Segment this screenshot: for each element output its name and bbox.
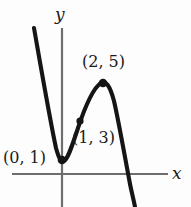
point-label-maximum: (2, 5) xyxy=(82,54,125,70)
x-axis-label: x xyxy=(172,165,182,182)
y-axis-label: y xyxy=(55,6,65,23)
point-marker-0-1 xyxy=(58,156,67,165)
plot-canvas xyxy=(0,0,191,207)
point-marker-1-3 xyxy=(76,117,83,124)
point-label-inflection: (1, 3) xyxy=(72,130,115,146)
point-label-origin: (0, 1) xyxy=(3,150,46,166)
graph-figure: y x (0, 1) (1, 3) (2, 5) xyxy=(0,0,191,207)
point-marker-2-5 xyxy=(99,79,108,88)
